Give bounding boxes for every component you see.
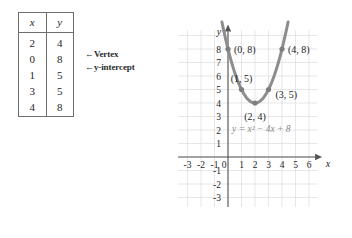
cell-y: 8: [46, 51, 74, 67]
annotation-y-intercept: ←y-intercept: [85, 62, 135, 72]
x-axis-arrowhead: [315, 154, 322, 160]
point-label: (1, 5): [231, 73, 253, 85]
column-header-y: y: [46, 13, 74, 33]
y-axis-arrowhead: [225, 24, 231, 31]
cell-y: 5: [46, 67, 74, 83]
x-tick-label: 3: [266, 160, 271, 170]
y-axis-name: y: [216, 26, 222, 37]
point-label: (4, 8): [288, 44, 310, 56]
x-tick-label: 6: [307, 160, 312, 170]
x-tick-label: 4: [280, 160, 285, 170]
cell-x: 0: [19, 51, 47, 67]
table-row: 0 8: [19, 51, 74, 67]
x-tick-label: 1: [239, 160, 244, 170]
y-tick-label: 8: [216, 45, 221, 55]
equation-label: y = x² − 4x + 8: [231, 124, 291, 134]
point-label: (2, 4): [244, 111, 266, 123]
y-tick-label: 4: [216, 99, 221, 109]
column-header-x: x: [19, 13, 47, 33]
x-axis-name: x: [325, 158, 331, 169]
y-tick-label: -3: [213, 193, 221, 203]
cell-y: 8: [46, 99, 74, 117]
value-table-panel: x y 2 4 0 8 1 5 3 5 4 8: [18, 12, 74, 117]
data-point: [266, 87, 271, 92]
data-point: [252, 100, 257, 105]
cell-y: 5: [46, 83, 74, 99]
table-row: 1 5: [19, 67, 74, 83]
cell-x: 1: [19, 67, 47, 83]
y-tick-label: 3: [216, 112, 221, 122]
cell-x: 2: [19, 33, 47, 52]
table-row: 2 4: [19, 33, 74, 52]
x-tick-label: 0: [222, 160, 227, 170]
y-tick-label: 5: [216, 85, 221, 95]
annotation-vertex: ←Vertex: [85, 49, 118, 59]
data-point: [239, 87, 244, 92]
table-header-row: x y: [19, 13, 74, 33]
cell-y: 4: [46, 33, 74, 52]
x-tick-label: -3: [184, 160, 192, 170]
xy-value-table: x y 2 4 0 8 1 5 3 5 4 8: [18, 12, 74, 117]
y-tick-label: 7: [216, 58, 221, 68]
y-tick-label: -2: [213, 180, 221, 190]
parabola-graph: -3-2-1012345687654321-1-2-3xy(0, 8)(1, 5…: [176, 0, 352, 238]
cell-x: 4: [19, 99, 47, 117]
x-tick-label: 2: [253, 160, 258, 170]
x-tick-label: -2: [197, 160, 205, 170]
y-tick-label: 1: [216, 139, 221, 149]
y-tick-label: 2: [216, 126, 221, 136]
table-row: 3 5: [19, 83, 74, 99]
table-row: 4 8: [19, 99, 74, 117]
point-label: (3, 5): [276, 89, 298, 101]
y-tick-label: -1: [213, 166, 221, 176]
graph-panel: -3-2-1012345687654321-1-2-3xy(0, 8)(1, 5…: [176, 0, 352, 238]
data-point: [225, 46, 230, 51]
cell-x: 3: [19, 83, 47, 99]
data-point: [279, 46, 284, 51]
x-tick-label: 5: [293, 160, 298, 170]
point-label: (0, 8): [234, 44, 256, 56]
y-tick-label: 6: [216, 72, 221, 82]
